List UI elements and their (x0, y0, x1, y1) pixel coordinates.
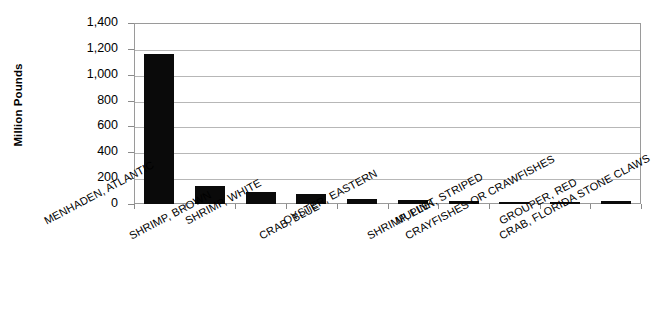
x-axis-tick-mark (489, 204, 490, 209)
x-axis-tick-mark (235, 204, 236, 209)
x-axis-tick-mark (388, 204, 389, 209)
bar (144, 54, 174, 204)
x-axis-tick-mark (286, 204, 287, 209)
x-axis-tick-mark (134, 204, 135, 209)
x-axis-tick-mark (337, 204, 338, 209)
y-axis-tick-label: 1,400 (0, 16, 118, 29)
y-axis-ticks: 1,4001,2001,0008006004002000 (0, 0, 134, 311)
y-axis-tick-label: 200 (0, 171, 118, 184)
bars-layer (134, 23, 641, 204)
y-axis-tick-label: 1,000 (0, 68, 118, 81)
bar-chart: Million Pounds 1,4001,2001,0008006004002… (0, 0, 656, 311)
x-axis-tick-mark (590, 204, 591, 209)
y-axis-tick-label: 800 (0, 94, 118, 107)
y-axis-tick-label: 1,200 (0, 42, 118, 55)
y-axis-tick-label: 600 (0, 119, 118, 132)
x-axis-tick-mark (641, 204, 642, 209)
y-axis-tick-label: 400 (0, 145, 118, 158)
